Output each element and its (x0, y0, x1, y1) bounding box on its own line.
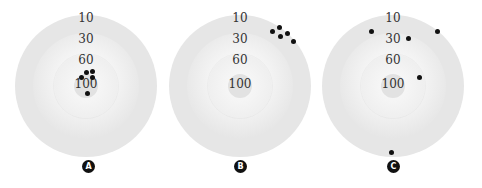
shot-dot (406, 36, 411, 41)
badge-c: C (387, 160, 400, 173)
shot-dot (291, 39, 296, 44)
ring-label-60: 60 (66, 54, 106, 66)
shot-dot (79, 75, 84, 80)
ring-label-10: 10 (373, 12, 413, 24)
badge-b: B (234, 160, 247, 173)
ring-label-100: 100 (66, 78, 106, 90)
target-b: 10 30 60 100 (169, 15, 311, 157)
shot-dot (435, 29, 440, 34)
ring-label-30: 30 (220, 33, 260, 45)
shot-dot (270, 29, 275, 34)
ring-label-30: 30 (66, 33, 106, 45)
ring-label-60: 60 (220, 54, 260, 66)
shot-dot (85, 91, 90, 96)
shot-dot (277, 25, 282, 30)
target-c: 10 30 60 100 (322, 15, 464, 157)
shot-dot (417, 75, 422, 80)
ring-label-100: 100 (373, 78, 413, 90)
shot-dot (285, 31, 290, 36)
ring-label-60: 60 (373, 54, 413, 66)
shot-dot (389, 150, 394, 155)
target-a: 10 30 60 100 (15, 15, 157, 157)
shot-dot (90, 69, 95, 74)
shot-dot (84, 70, 89, 75)
ring-label-10: 10 (220, 12, 260, 24)
shot-dot (369, 29, 374, 34)
ring-label-10: 10 (66, 12, 106, 24)
shot-dot (278, 34, 283, 39)
ring-label-100: 100 (220, 78, 260, 90)
shot-dot (90, 75, 95, 80)
badge-a: A (82, 160, 95, 173)
